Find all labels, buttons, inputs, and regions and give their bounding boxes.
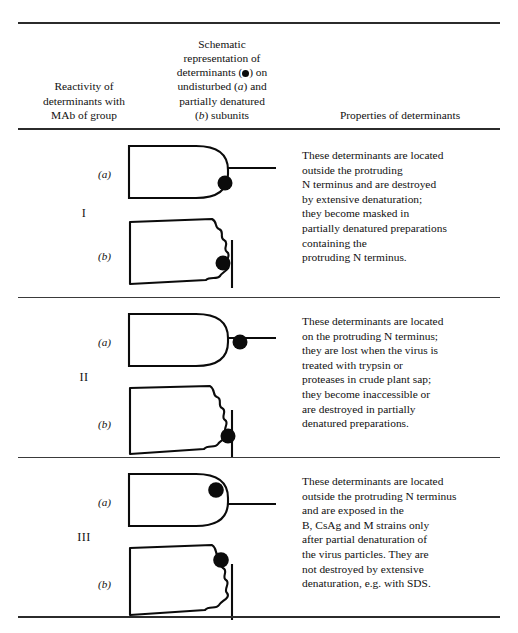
header-col2-line6-post: ) subunits [204, 109, 249, 121]
properties-line: partially denatured preparations [302, 221, 514, 236]
sublabel-a-row1: (a) [98, 168, 111, 180]
table-row: I (a) (b) [0, 140, 518, 295]
properties-line: These determinants are located [302, 314, 514, 329]
header-col2-line4: undisturbed (a) and [158, 79, 286, 93]
determinant-dot-icon [208, 482, 224, 498]
properties-line: by extensive denaturation; [302, 192, 514, 207]
subunit-undisturbed-row3 [124, 468, 294, 546]
properties-line: they become inaccessible or [302, 387, 514, 402]
header-col3-label: Properties of determinants [292, 108, 508, 122]
diagram-row2-a: (a) [96, 308, 296, 382]
figure-table: Reactivity of determinants with MAb of g… [0, 0, 518, 633]
subunit-svg-row2-b [124, 382, 294, 466]
header-col-reactivity: Reactivity of determinants with MAb of g… [14, 79, 154, 122]
properties-line: denatured preparations. [302, 416, 514, 431]
determinant-dot-icon [216, 256, 231, 271]
diagram-row3-a: (a) [96, 468, 296, 542]
subunit-body-path [129, 474, 228, 526]
subunit-body-path [130, 545, 228, 615]
diagram-cell-1: (a) (b) [96, 140, 296, 298]
subunit-undisturbed-row2 [124, 308, 294, 386]
subunit-svg-row1-b [124, 214, 294, 298]
subunit-body-path [130, 386, 227, 454]
rule-below-header [18, 128, 500, 130]
sublabel-a-row2: (a) [98, 336, 111, 348]
subunit-body-path [130, 219, 229, 284]
determinant-dot-icon [221, 429, 236, 444]
properties-line: outside the protruding N terminus [302, 489, 514, 504]
properties-line: denaturation, e.g. with SDS. [302, 576, 514, 591]
diagram-row1-a: (a) [96, 140, 296, 214]
header-col1-line2: determinants with [14, 94, 154, 108]
properties-line: the virus particles. They are [302, 547, 514, 562]
properties-line: proteases in crude plant sap; [302, 372, 514, 387]
header-col2-line6: (b) subunits [158, 108, 286, 122]
diagram-cell-2: (a) (b) [96, 308, 296, 466]
subunit-body-path [129, 146, 228, 198]
properties-cell-1: These determinants are located outside t… [302, 148, 514, 265]
sublabel-b-row3: (b) [98, 578, 111, 590]
properties-cell-2: These determinants are located on the pr… [302, 314, 514, 431]
header-col2-line3-pre: determinants ( [177, 66, 242, 78]
diagram-row2-b: (b) [96, 382, 296, 466]
properties-line: These determinants are located [302, 148, 514, 163]
sublabel-b-row2: (b) [98, 418, 111, 430]
diagram-row3-b: (b) [96, 542, 296, 626]
properties-line: These determinants are located [302, 474, 514, 489]
subunit-undisturbed-row1 [124, 140, 294, 218]
properties-line: and are exposed in the [302, 503, 514, 518]
determinant-dot-icon [218, 176, 233, 191]
properties-line: not destroyed by extensive [302, 562, 514, 577]
determinant-dot-icon [233, 335, 248, 350]
header-col2-line5: partially denatured [158, 94, 286, 108]
subunit-svg-row3-a [124, 468, 294, 542]
properties-line: treated with trypsin or [302, 358, 514, 373]
properties-line: N terminus and are destroyed [302, 177, 514, 192]
properties-line: are destroyed in partially [302, 402, 514, 417]
subunit-body-path [129, 314, 228, 366]
properties-cell-3: These determinants are located outside t… [302, 474, 514, 591]
sublabel-b-row1: (b) [98, 250, 111, 262]
properties-line: outside the protruding [302, 163, 514, 178]
determinant-dot-icon [213, 552, 229, 568]
subunit-svg-row2-a [124, 308, 294, 382]
sublabel-a-row3: (a) [98, 496, 111, 508]
rule-bottom [18, 616, 500, 618]
header-col2-line1: Schematic [158, 37, 286, 51]
diagram-row1-b: (b) [96, 214, 296, 298]
header-col-schematic: Schematic representation of determinants… [158, 37, 286, 122]
properties-line: B, CsAg and M strains only [302, 518, 514, 533]
properties-line: containing the [302, 236, 514, 251]
properties-line: on the protruding N terminus; [302, 329, 514, 344]
header-col1-line1: Reactivity of [14, 79, 154, 93]
subunit-svg-row3-b [124, 542, 294, 626]
properties-line: they are lost when the virus is [302, 343, 514, 358]
subunit-denatured-row1 [124, 214, 294, 302]
diagram-cell-3: (a) (b) [96, 468, 296, 626]
table-header: Reactivity of determinants with MAb of g… [0, 18, 518, 122]
header-col2-line4-post: ) and [244, 80, 267, 92]
header-col1-line3: MAb of group [14, 108, 154, 122]
header-col2-line4-pre: undisturbed ( [177, 80, 237, 92]
table-row: II (a) (b) [0, 308, 518, 456]
rule-after-row-1 [18, 297, 500, 298]
rule-after-row-2 [18, 457, 500, 458]
properties-line: protruding N terminus. [302, 250, 514, 265]
properties-line: after partial denaturation of [302, 532, 514, 547]
header-col2-line2: representation of [158, 51, 286, 65]
properties-line: they become masked in [302, 206, 514, 221]
header-col2-line3: determinants () on [158, 65, 286, 79]
table-row: III (a) (b) [0, 468, 518, 616]
header-col-properties: Properties of determinants [292, 108, 508, 122]
subunit-svg-row1-a [124, 140, 294, 214]
header-col2-line3-post: ) on [249, 66, 267, 78]
